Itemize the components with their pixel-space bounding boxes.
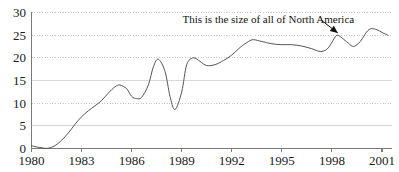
y-axis-tick-label: 20 [0,51,26,64]
x-axis-tick-label: 1992 [209,154,255,167]
y-axis-tick-label: 15 [0,74,26,87]
x-axis-tick-label: 1983 [59,154,105,167]
gridlines [32,13,393,149]
x-axis-tick-label: 1995 [259,154,305,167]
x-axis-tick-label: 1998 [309,154,355,167]
data-series-lines [32,29,388,149]
y-axis-tick-label: 10 [0,97,26,110]
y-axis-tick-label: 25 [0,29,26,42]
x-axis-tick-label: 2001 [359,154,399,167]
annotation-label-north-america: This is the size of all of North America [182,13,354,25]
line-chart: 051015202530 198019831986198919921995199… [0,0,399,172]
x-axis-tick-label: 1986 [109,154,155,167]
x-axis-tick-label: 1989 [159,154,205,167]
chart-plot-area [0,0,399,172]
y-axis-tick-label: 5 [0,119,26,132]
y-axis-tick-label: 30 [0,6,26,19]
x-axis-tick-label: 1980 [9,154,55,167]
